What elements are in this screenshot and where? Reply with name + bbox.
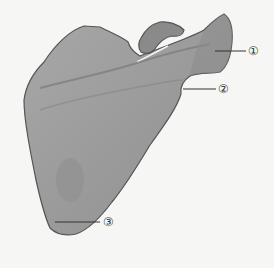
label-1: ① (248, 45, 259, 57)
label-2: ② (218, 83, 229, 95)
shading (56, 158, 84, 202)
scapula-diagram (0, 0, 274, 268)
label-3: ③ (103, 216, 114, 228)
